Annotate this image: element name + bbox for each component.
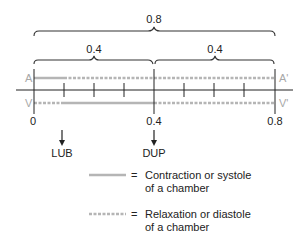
ventricles-right-label: V' [279,97,288,109]
bracket-second-half-label: 0.4 [207,43,222,55]
dup-arrow-icon [151,130,157,146]
tick-label-0: 0 [30,115,36,127]
bracket-second-half [155,56,274,64]
bracket-first-half-label: 0.4 [86,43,101,55]
legend-systole-line2: of a chamber [145,182,251,195]
atria-left-label: A [25,72,33,84]
legend-systole-line1: Contraction or systole [145,169,251,182]
legend-systole: Contraction or systole of a chamber [145,169,251,195]
dup-label: DUP [142,147,165,159]
bracket-total [34,27,275,36]
tick-label-0-4: 0.4 [146,115,161,127]
lub-arrow-icon [59,130,65,146]
lub-label: LUB [51,147,72,159]
legend-diastole-equals: = [131,208,137,220]
bracket-total-label: 0.8 [146,13,161,25]
tick-label-0-8: 0.8 [267,115,282,127]
atria-right-label: A' [279,72,288,84]
bracket-first-half [34,56,153,64]
ventricles-left-label: V [25,97,33,109]
time-axis [16,69,293,114]
legend-diastole-line2: of a chamber [145,221,251,234]
legend-diastole-line1: Relaxation or diastole [145,208,251,221]
legend-systole-equals: = [131,169,137,181]
legend-diastole: Relaxation or diastole of a chamber [145,208,251,234]
